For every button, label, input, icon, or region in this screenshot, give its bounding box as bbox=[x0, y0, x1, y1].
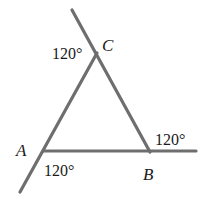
diagram-canvas: C A B 120° 120° 120° bbox=[0, 0, 209, 209]
triangle-diagram: C A B 120° 120° 120° bbox=[0, 0, 209, 209]
vertex-label-a: A bbox=[15, 141, 27, 160]
vertex-label-b: B bbox=[143, 165, 154, 184]
angle-label-a: 120° bbox=[44, 162, 74, 179]
angle-label-b: 120° bbox=[155, 131, 185, 148]
line-cb-extended bbox=[72, 10, 150, 152]
angle-label-c: 120° bbox=[52, 45, 82, 62]
vertex-label-c: C bbox=[102, 36, 114, 55]
